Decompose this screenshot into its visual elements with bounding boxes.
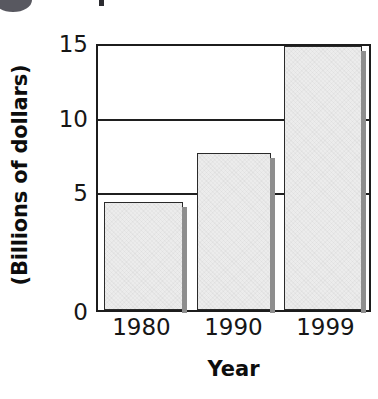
bar-face <box>198 154 270 309</box>
x-tick-label-1999: 1999 <box>280 316 371 339</box>
bar-shadow <box>182 207 187 313</box>
bar-chart-figure: (Billions of dollars) 15 10 5 0 1980 199… <box>0 0 378 399</box>
y-tick-label-0: 0 <box>42 301 88 324</box>
bar-shadow <box>270 158 275 313</box>
x-axis-tick-labels: 1980 1990 1999 <box>96 316 371 348</box>
bar-face <box>285 47 361 309</box>
bar-1980 <box>104 202 183 310</box>
bar-1990 <box>197 153 271 310</box>
y-axis-title: (Billions of dollars) <box>8 25 32 325</box>
bar-series <box>98 46 369 310</box>
y-tick-label-5: 5 <box>42 182 88 205</box>
bar-shadow <box>361 51 366 313</box>
x-tick-label-1980: 1980 <box>96 316 187 339</box>
bar-face <box>105 203 182 309</box>
x-tick-label-1990: 1990 <box>188 316 279 339</box>
plot-area <box>96 44 371 312</box>
cropped-bullet-marker-icon <box>0 0 32 12</box>
bar-1999 <box>284 46 362 310</box>
y-tick-label-10: 10 <box>42 108 88 131</box>
cropped-text-fragment-icon <box>99 0 104 6</box>
y-axis-tick-labels: 15 10 5 0 <box>36 0 88 399</box>
x-axis-title: Year <box>96 357 371 381</box>
y-tick-label-15: 15 <box>42 33 88 56</box>
